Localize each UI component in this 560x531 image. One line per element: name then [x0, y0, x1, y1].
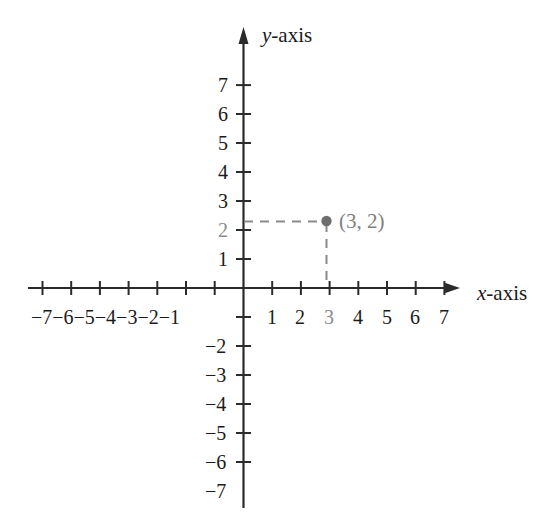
x-tick-label-6: 6: [410, 307, 420, 327]
y-tick-label-3: 3: [218, 191, 228, 211]
x-tick-label-1: 1: [267, 307, 277, 327]
y-tick-label-neg6: −6: [205, 452, 226, 472]
coordinate-plane-figure: y-axis x-axis −7−6−5−4−3−2−1 1 2 3 4 5 6…: [0, 0, 560, 531]
y-tick-label-5: 5: [218, 133, 228, 153]
y-axis-label: y-axis: [262, 25, 312, 46]
y-tick-label-1: 1: [218, 249, 228, 269]
y-axis-arrowhead-icon: [239, 27, 249, 44]
y-tick-label-7: 7: [218, 75, 228, 95]
x-tick-label-3: 3: [324, 307, 334, 327]
y-axis-label-variable: y: [262, 23, 271, 47]
plotted-point-dot: [321, 216, 331, 226]
y-axis-group: [239, 27, 249, 508]
y-tick-label-4: 4: [218, 162, 228, 182]
x-tick-label-7: 7: [439, 307, 449, 327]
y-tick-label-neg2: −2: [205, 336, 226, 356]
plotted-point-label: (3, 2): [339, 211, 385, 232]
x-axis-arrowhead-icon: [444, 283, 460, 294]
x-tick-label-2: 2: [295, 307, 305, 327]
x-axis-label: x-axis: [477, 283, 527, 304]
y-axis-label-suffix: -axis: [271, 23, 312, 47]
x-tick-label-5: 5: [382, 307, 392, 327]
x-axis-label-variable: x: [477, 281, 486, 305]
y-tick-label-6: 6: [218, 104, 228, 124]
x-axis-negative-tick-labels: −7−6−5−4−3−2−1: [31, 307, 180, 327]
x-axis-label-suffix: -axis: [486, 281, 527, 305]
y-tick-label-neg7: −7: [205, 481, 226, 501]
y-tick-label-neg3: −3: [205, 365, 226, 385]
coordinate-plane-canvas: [0, 0, 560, 531]
y-tick-label-neg4: −4: [205, 394, 226, 414]
y-tick-label-neg5: −5: [205, 423, 226, 443]
point-guide-lines: [244, 222, 327, 288]
x-tick-label-4: 4: [353, 307, 363, 327]
y-tick-label-2: 2: [218, 220, 228, 240]
